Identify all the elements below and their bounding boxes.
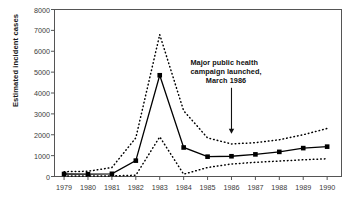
data-point-marker xyxy=(325,144,330,149)
data-point-marker xyxy=(205,154,210,159)
data-series-group xyxy=(62,35,330,177)
plot-frame xyxy=(55,10,342,177)
arrow-head xyxy=(229,129,234,134)
chart-plot-area xyxy=(0,0,355,206)
data-point-marker xyxy=(86,172,91,177)
data-point-marker xyxy=(62,172,67,177)
campaign-annotation: Major public health campaign launched, M… xyxy=(190,58,261,86)
x-axis-ticks xyxy=(64,177,327,181)
annotation-arrow xyxy=(229,88,234,134)
annotation-line-2: campaign launched, xyxy=(190,67,261,76)
chart-figure: Estimated incident cases 010002000300040… xyxy=(0,0,355,206)
data-point-marker xyxy=(134,158,139,163)
main-series-line xyxy=(64,75,327,174)
data-point-marker xyxy=(277,150,282,155)
data-point-marker xyxy=(253,152,258,157)
y-axis-ticks xyxy=(51,10,55,177)
uncertainty-band-line xyxy=(64,137,327,176)
data-point-marker xyxy=(181,145,186,150)
annotation-line-3: March 1986 xyxy=(190,76,261,85)
data-point-marker xyxy=(301,146,306,151)
annotation-line-1: Major public health xyxy=(190,58,261,67)
data-point-marker xyxy=(229,154,234,159)
data-point-marker xyxy=(157,73,162,78)
data-point-marker xyxy=(110,171,115,176)
